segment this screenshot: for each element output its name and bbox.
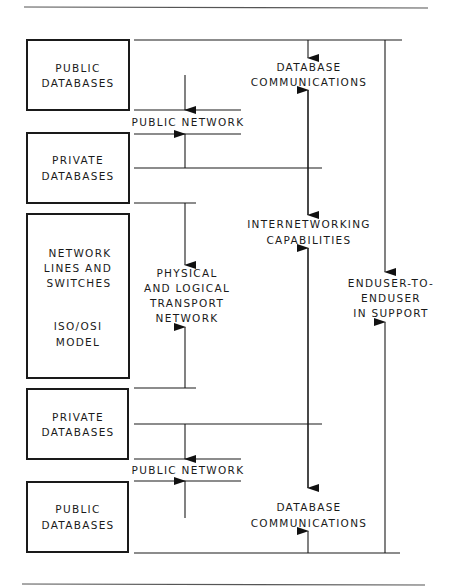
box-private-databases-top: PRIVATE DATABASES	[27, 133, 129, 203]
transport-label: PHYSICAL	[156, 267, 217, 279]
box-label: DATABASES	[41, 170, 114, 182]
box-label: DATABASES	[41, 426, 114, 438]
db-comm-top-label: COMMUNICATIONS	[251, 76, 368, 88]
box-label: NETWORK	[49, 247, 112, 259]
network-diagram: PUBLIC DATABASES PRIVATE DATABASES NETWO…	[0, 0, 451, 588]
box-label: SWITCHES	[47, 277, 112, 289]
bottom-rule	[22, 584, 425, 585]
enduser-label: IN SUPPORT	[353, 307, 429, 319]
db-comm-bottom-label: COMMUNICATIONS	[251, 517, 368, 529]
enduser-label: ENDUSER-TO-	[348, 277, 434, 289]
box-label: LINES AND	[44, 262, 112, 274]
box-label: PUBLIC	[55, 503, 100, 515]
transport-label: AND LOGICAL	[144, 282, 230, 294]
public-network-bottom-label: PUBLIC NETWORK	[132, 464, 245, 476]
top-rule	[24, 7, 428, 8]
box-label: DATABASES	[41, 519, 114, 531]
box-network-lines-and-switches: NETWORK LINES AND SWITCHES ISO/OSI MODEL	[27, 214, 129, 378]
box-label: PRIVATE	[52, 154, 104, 166]
enduser-label: ENDUSER	[361, 292, 421, 304]
box-label: PRIVATE	[52, 411, 104, 423]
db-comm-bottom-label: DATABASE	[276, 501, 341, 513]
db-comm-top-label: DATABASE	[276, 61, 341, 73]
box-label: ISO/OSI	[54, 320, 103, 332]
public-network-top-label: PUBLIC NETWORK	[132, 116, 245, 128]
box-public-databases-bottom: PUBLIC DATABASES	[27, 482, 128, 552]
transport-label: NETWORK	[156, 312, 219, 324]
box-public-databases-top: PUBLIC DATABASES	[27, 40, 129, 110]
box-label: DATABASES	[41, 77, 114, 89]
internetworking-label: INTERNETWORKING	[247, 218, 371, 230]
transport-label: TRANSPORT	[149, 297, 224, 309]
box-private-databases-bottom: PRIVATE DATABASES	[27, 389, 128, 459]
box-label: PUBLIC	[55, 62, 100, 74]
box-label: MODEL	[56, 336, 100, 348]
internetworking-label: CAPABILITIES	[266, 234, 351, 246]
